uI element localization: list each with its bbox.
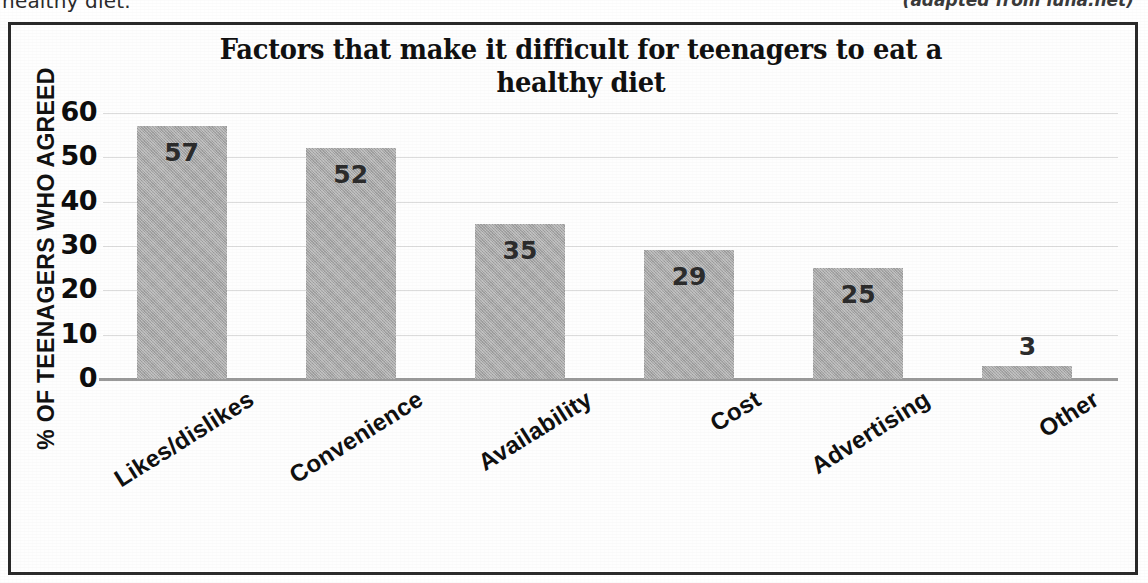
y-axis-tick-label: 50 bbox=[27, 140, 97, 171]
gridline bbox=[103, 202, 1118, 203]
chart-figure-frame: Factors that make it difficult for teena… bbox=[8, 22, 1138, 575]
gridline bbox=[103, 157, 1118, 158]
gridline bbox=[103, 290, 1118, 291]
x-axis-category-labels: Likes/dislikesConvenienceAvailabilityCos… bbox=[103, 385, 1118, 545]
plot-area: 605040302010057523529253 bbox=[103, 113, 1118, 379]
bar-value-label: 57 bbox=[137, 138, 227, 167]
page-top-text-strip: healthy diet. (adapted from luna.net) bbox=[0, 0, 1148, 22]
bar bbox=[982, 366, 1072, 379]
chart-title: Factors that make it difficult for teena… bbox=[167, 33, 995, 99]
gridline bbox=[103, 335, 1118, 336]
y-axis-tick-label: 20 bbox=[27, 273, 97, 304]
clipped-body-text: healthy diet. bbox=[2, 0, 131, 13]
y-axis-tick-label: 10 bbox=[27, 318, 97, 349]
x-axis-category-label: Likes/dislikes bbox=[109, 385, 259, 493]
bar-value-label: 35 bbox=[475, 236, 565, 265]
x-axis-category-label: Convenience bbox=[284, 385, 427, 489]
y-axis-tick-label: 0 bbox=[27, 362, 97, 393]
y-axis-tick-label: 60 bbox=[27, 96, 97, 127]
y-axis-tick-label: 30 bbox=[27, 229, 97, 260]
gridline bbox=[103, 246, 1118, 247]
source-attribution: (adapted from luna.net) bbox=[903, 0, 1134, 10]
bar-value-label: 29 bbox=[644, 262, 734, 291]
gridline bbox=[103, 113, 1118, 114]
bar-value-label: 52 bbox=[306, 160, 396, 189]
x-axis-category-label: Availability bbox=[473, 385, 597, 477]
x-axis-category-label: Other bbox=[1034, 385, 1104, 443]
x-axis-line bbox=[99, 378, 1118, 381]
x-axis-category-label: Advertising bbox=[806, 385, 935, 480]
bar-value-label: 25 bbox=[813, 280, 903, 309]
y-axis-tick-label: 40 bbox=[27, 185, 97, 216]
x-axis-category-label: Cost bbox=[705, 385, 766, 437]
bar-value-label: 3 bbox=[982, 332, 1072, 361]
